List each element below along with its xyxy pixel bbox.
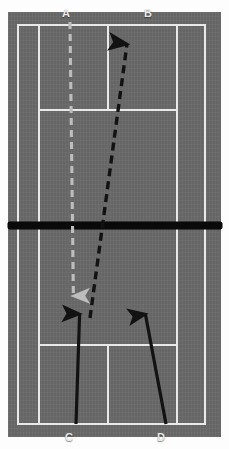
position-label-a: A [62, 8, 70, 19]
diagram-canvas: A B C D [0, 0, 229, 449]
arrow-black-solid-from-c [76, 314, 80, 424]
position-label-b: B [144, 8, 152, 19]
position-label-d: D [157, 432, 165, 443]
arrow-overlay [0, 0, 229, 449]
position-label-c: C [65, 432, 73, 443]
arrow-black-solid-from-d [145, 314, 166, 424]
arrow-grey-dashed-down [70, 22, 73, 296]
arrow-black-dashed-up [90, 44, 127, 318]
